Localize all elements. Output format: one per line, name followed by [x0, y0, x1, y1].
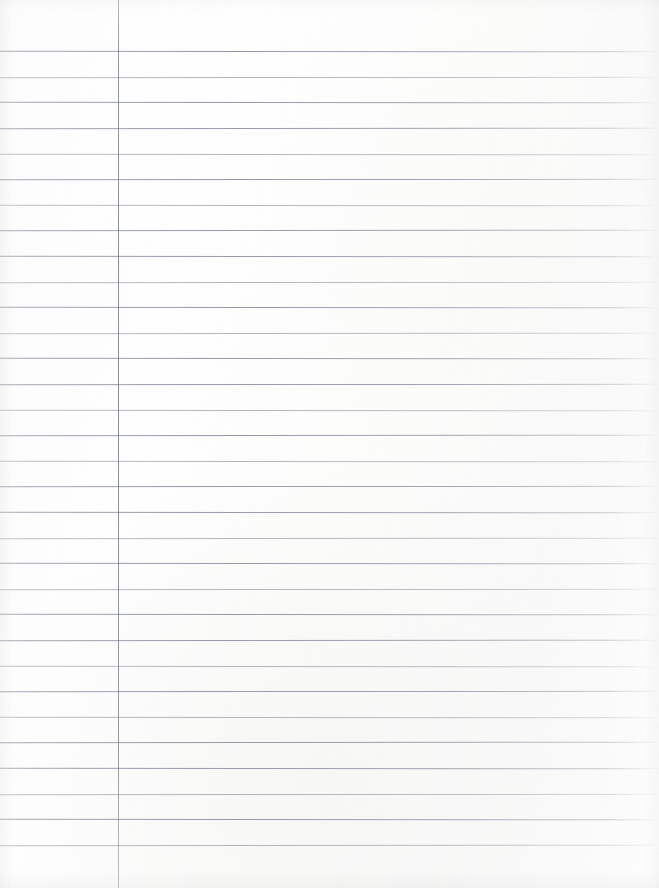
paper-texture-overlay	[0, 0, 659, 888]
rule-line	[0, 640, 659, 642]
rule-line	[0, 717, 659, 719]
scan-edge-shading	[0, 0, 659, 888]
rule-line	[0, 538, 659, 540]
rule-line	[0, 154, 659, 156]
rule-line	[0, 819, 659, 821]
rule-line	[0, 589, 659, 590]
rule-line	[0, 230, 659, 232]
rule-line	[0, 563, 659, 565]
rule-line	[0, 358, 659, 360]
rule-line	[0, 179, 659, 180]
rule-line	[0, 51, 659, 53]
rule-line	[0, 77, 659, 78]
rule-line	[0, 768, 659, 770]
rule-line	[0, 384, 659, 385]
rule-line	[0, 614, 659, 616]
rule-line	[0, 205, 659, 207]
rule-line	[0, 512, 659, 514]
rule-line	[0, 486, 659, 487]
rule-line	[0, 666, 659, 668]
rule-line	[0, 102, 659, 104]
rule-line	[0, 282, 659, 283]
rule-line	[0, 794, 659, 795]
left-margin-rule	[118, 0, 119, 888]
rule-line	[0, 333, 659, 335]
rule-line	[0, 845, 659, 847]
rule-line	[0, 742, 659, 744]
rule-line	[0, 435, 659, 437]
rule-line	[0, 307, 659, 309]
notebook-page	[0, 0, 659, 888]
rule-line	[0, 128, 659, 130]
rule-line	[0, 256, 659, 258]
rule-line	[0, 410, 659, 412]
rule-line	[0, 691, 659, 692]
rule-line	[0, 461, 659, 463]
